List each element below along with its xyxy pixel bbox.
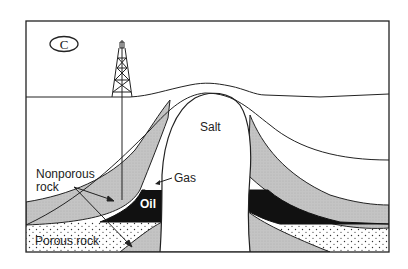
nonporous-rock-label-line2: rock xyxy=(36,180,60,194)
gas-label: Gas xyxy=(174,171,196,185)
oil-label: Oil xyxy=(140,197,156,211)
nonporous-rock-label-line1: Nonporous xyxy=(36,167,95,181)
salt-label: Salt xyxy=(200,120,221,134)
salt-dome-diagram: C Salt Gas Oil Nonporous rock Porous roc… xyxy=(0,0,408,269)
panel-label: C xyxy=(50,37,78,52)
svg-text:C: C xyxy=(60,37,69,52)
porous-rock-label: Porous rock xyxy=(35,234,100,248)
